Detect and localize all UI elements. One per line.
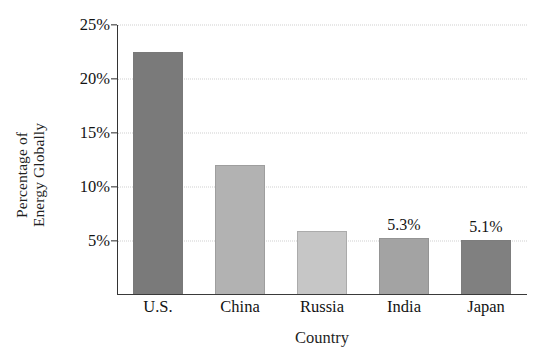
bar-rect <box>461 240 510 295</box>
x-axis-tick-labels: U.S.ChinaRussiaIndiaJapan <box>117 299 527 325</box>
y-axis-title-line-2: Energy Globally <box>30 123 47 227</box>
x-axis-tick-label: China <box>220 299 259 316</box>
bar <box>215 165 264 295</box>
x-axis-title: Country <box>117 330 527 347</box>
y-axis-tick-labels: 5%10%15%20%25% <box>58 0 110 361</box>
x-axis-tick-label: U.S. <box>143 299 172 316</box>
bar <box>133 52 182 295</box>
y-axis-tick-label: 15% <box>62 125 110 142</box>
y-axis-spine <box>117 25 118 295</box>
x-axis-tick-label: Russia <box>300 299 344 316</box>
bar-rect <box>379 238 428 295</box>
y-axis-tick-label: 20% <box>62 71 110 88</box>
plot-area: 5.3%5.1% <box>117 25 527 295</box>
bar-rect <box>215 165 264 295</box>
x-axis-spine <box>117 294 527 295</box>
bar-value-label: 5.1% <box>469 219 502 235</box>
bar-value-label: 5.3% <box>387 217 420 233</box>
x-axis-tick-label: Japan <box>467 299 505 316</box>
bar-rect <box>133 52 182 295</box>
y-axis-title: Percentage of Energy Globally <box>2 60 58 290</box>
x-axis-tick-label: India <box>387 299 421 316</box>
bar: 5.1% <box>461 240 510 295</box>
y-axis-tick-label: 10% <box>62 179 110 196</box>
bar-rect <box>297 231 346 295</box>
bar <box>297 231 346 295</box>
bar-series: 5.3%5.1% <box>117 25 527 295</box>
bar-chart-figure: Percentage of Energy Globally 5%10%15%20… <box>0 0 544 361</box>
y-axis-tick-label: 5% <box>62 233 110 250</box>
y-axis-title-line-1: Percentage of <box>13 123 30 227</box>
y-axis-tick-label: 25% <box>62 17 110 34</box>
bar: 5.3% <box>379 238 428 295</box>
